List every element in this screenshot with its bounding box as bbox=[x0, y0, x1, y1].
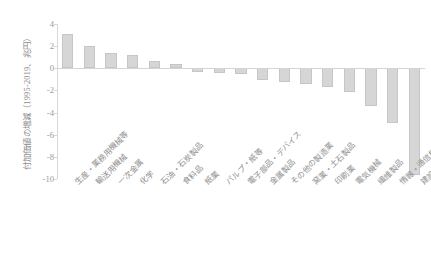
bar bbox=[84, 46, 95, 69]
bar bbox=[105, 53, 116, 68]
bar bbox=[387, 68, 398, 122]
bar bbox=[257, 68, 268, 80]
y-tick-mark bbox=[54, 90, 57, 91]
x-category-label: 窯業・土石製品 bbox=[312, 181, 318, 187]
x-category-label: 電子部品・デバイス bbox=[247, 181, 253, 187]
y-tick-mark bbox=[54, 46, 57, 47]
x-category-label: 繊維製品 bbox=[377, 181, 383, 187]
x-category-label: 石油・石炭製品 bbox=[160, 181, 166, 187]
bar bbox=[322, 68, 333, 87]
y-tick-mark bbox=[54, 135, 57, 136]
x-category-label: 印刷業 bbox=[334, 181, 340, 187]
bar bbox=[365, 68, 376, 106]
x-category-label: その他の製造業 bbox=[290, 181, 296, 187]
x-category-label: 情報・通信機器 bbox=[399, 181, 405, 187]
plot-area bbox=[57, 24, 425, 179]
y-tick-label: -6 bbox=[47, 130, 54, 140]
zero-baseline bbox=[57, 68, 425, 69]
x-category-label: 金属製品 bbox=[269, 181, 275, 187]
x-category-label: 輸送用機械 bbox=[95, 181, 101, 187]
y-tick-label: -4 bbox=[47, 108, 54, 118]
x-category-label: 食料品 bbox=[182, 181, 188, 187]
y-tick-mark bbox=[54, 179, 57, 180]
y-tick-mark bbox=[54, 113, 57, 114]
y-tick-label: -2 bbox=[47, 85, 54, 95]
y-tick-label: -8 bbox=[47, 152, 54, 162]
bars-layer bbox=[57, 24, 425, 179]
x-category-label: 建設業 bbox=[420, 181, 426, 187]
y-tick-mark bbox=[54, 24, 57, 25]
x-category-label: 化学 bbox=[139, 181, 145, 187]
bar bbox=[127, 55, 138, 68]
bar bbox=[149, 61, 160, 69]
y-tick-label: -10 bbox=[43, 174, 54, 184]
y-tick-mark bbox=[54, 157, 57, 158]
x-category-label: 電気機械 bbox=[355, 181, 361, 187]
bar bbox=[344, 68, 355, 92]
bar bbox=[62, 34, 73, 68]
y-axis-tick-labels: 420-2-4-6-8-10 bbox=[24, 24, 54, 179]
x-category-label: パルプ・紙等 bbox=[225, 181, 231, 187]
bar bbox=[300, 68, 311, 84]
x-category-label: 生産・業務用機械等 bbox=[74, 181, 80, 187]
x-category-label: 紙業 bbox=[204, 181, 210, 187]
bar-chart: 付加価値の増減（1995-2019、兆円） 420-2-4-6-8-10 生産・… bbox=[0, 0, 431, 276]
x-category-label: 一次金属 bbox=[117, 181, 123, 187]
bar bbox=[279, 68, 290, 81]
x-axis-category-labels: 生産・業務用機械等輸送用機械一次金属化学石油・石炭製品食料品紙業パルプ・紙等電子… bbox=[57, 181, 425, 276]
